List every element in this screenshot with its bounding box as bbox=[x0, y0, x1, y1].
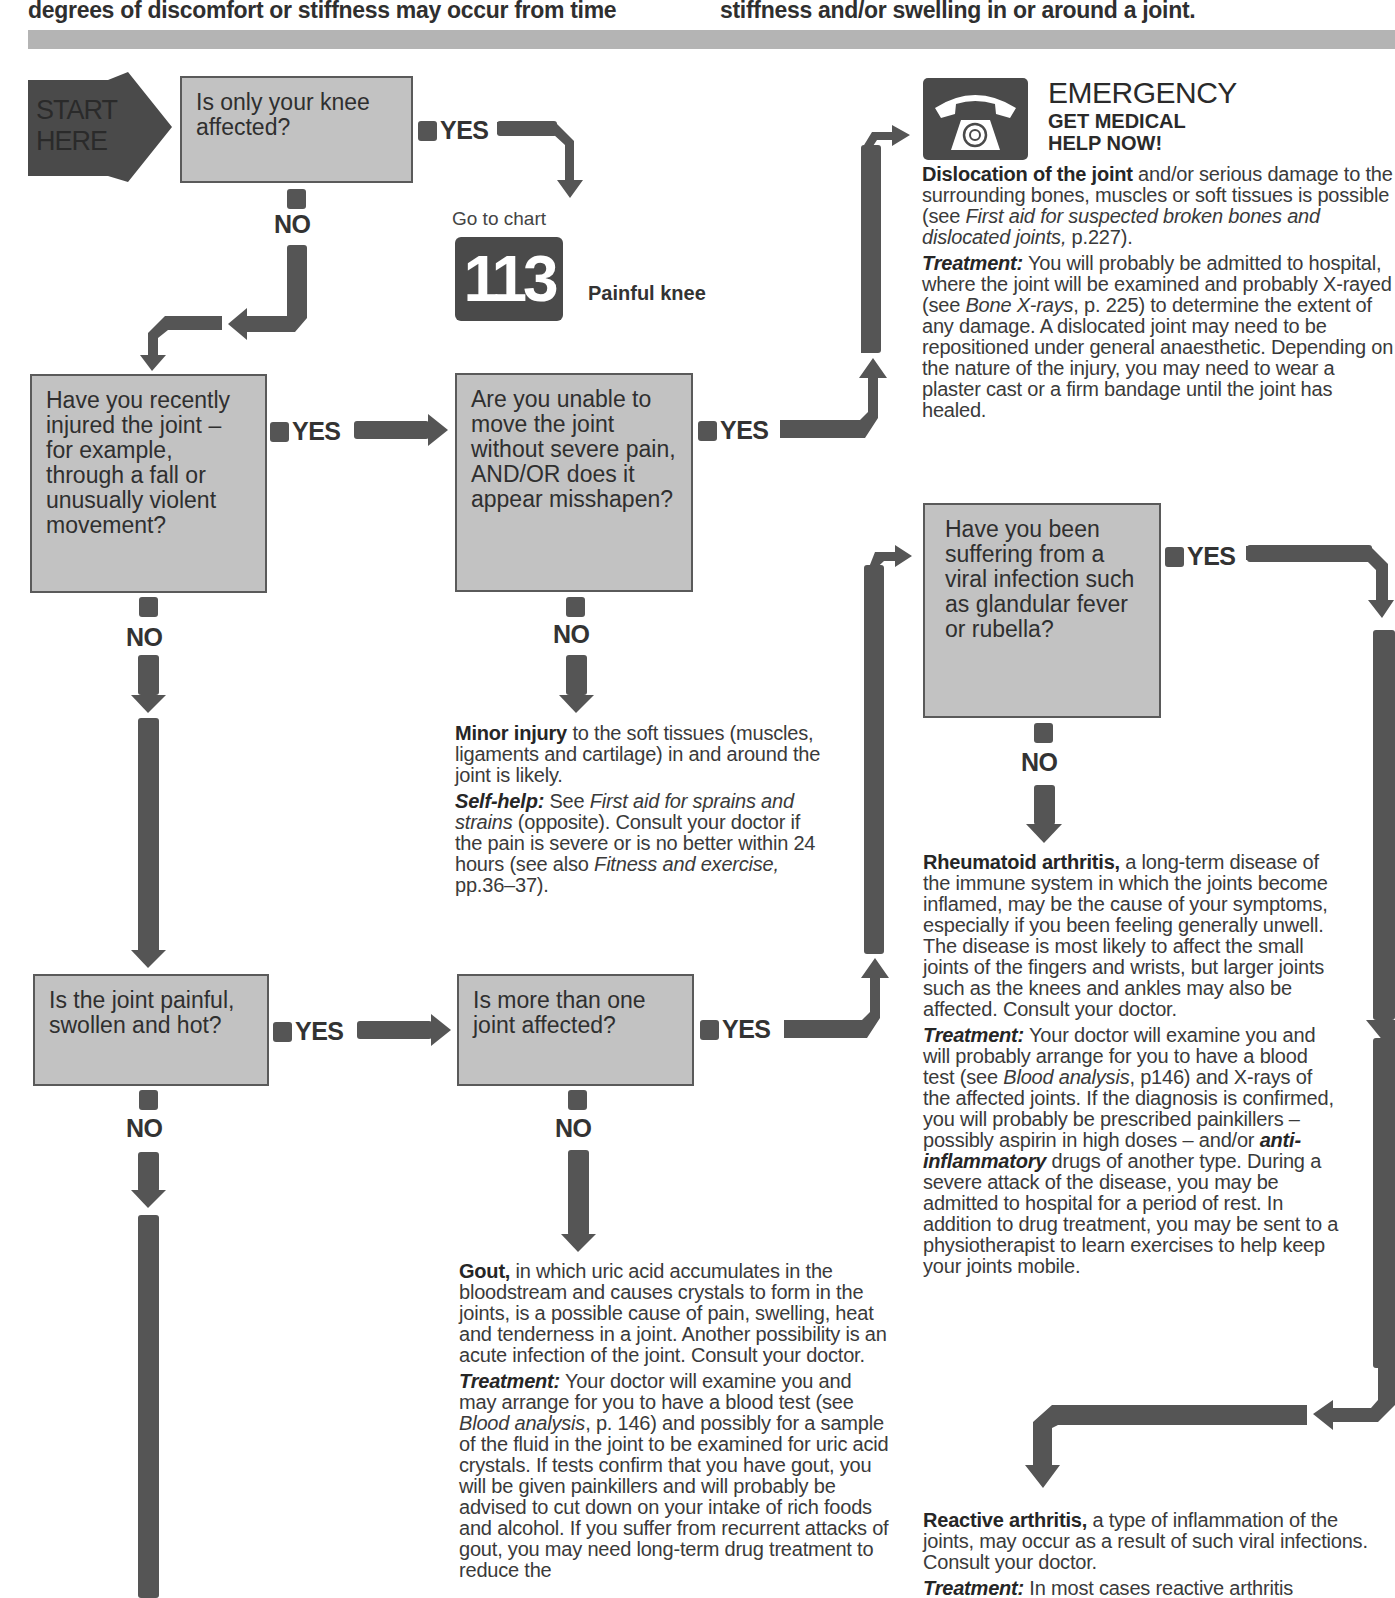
gout-heading: Gout, bbox=[459, 1260, 510, 1282]
yes-marker bbox=[700, 1020, 719, 1040]
reactive-treatment-paragraph: Treatment: In most cases reactive arthri… bbox=[923, 1578, 1393, 1598]
gout-text: in which uric acid accumulates in the bl… bbox=[459, 1260, 887, 1366]
no-marker-q3 bbox=[566, 597, 585, 617]
minor-injury-heading: Minor injury bbox=[455, 722, 567, 744]
question-unable-to-move: Are you unable to move the joint without… bbox=[455, 373, 693, 592]
no-label-q2: NO bbox=[126, 623, 163, 652]
start-here-label: START HERE bbox=[36, 95, 117, 157]
self-help-label: Self-help: bbox=[455, 790, 544, 812]
start-text-line2: HERE bbox=[36, 126, 117, 157]
yes-label-q3: YES bbox=[698, 416, 769, 445]
yes-marker bbox=[273, 1022, 292, 1042]
gout-treatment-paragraph: Treatment: Your doctor will examine you … bbox=[459, 1371, 889, 1581]
yes-text: YES bbox=[722, 1015, 771, 1044]
emergency-description: Dislocation of the joint and/or serious … bbox=[922, 164, 1395, 426]
blood-analysis-link: Blood analysis bbox=[459, 1412, 585, 1434]
yes-marker bbox=[1165, 547, 1184, 567]
start-text-line1: START bbox=[36, 95, 117, 126]
gout-paragraph: Gout, in which uric acid accumulates in … bbox=[459, 1261, 889, 1366]
chart-number-badge[interactable]: 113 bbox=[455, 237, 563, 321]
no-label-q1: NO bbox=[274, 210, 311, 239]
no-marker-q6 bbox=[1034, 723, 1053, 743]
telephone-icon bbox=[923, 78, 1028, 160]
treatment-label: Treatment: bbox=[459, 1370, 560, 1392]
no-marker-q1 bbox=[287, 189, 306, 209]
no-marker-q5 bbox=[568, 1090, 587, 1110]
yes-text: YES bbox=[720, 416, 769, 445]
minor-injury-conclusion: Minor injury to the soft tissues (muscle… bbox=[455, 723, 825, 901]
yes-label-q4: YES bbox=[273, 1017, 344, 1046]
yes-marker bbox=[270, 422, 289, 442]
yes-marker bbox=[698, 421, 717, 441]
no-marker-q2 bbox=[139, 597, 158, 617]
yes-text: YES bbox=[292, 417, 341, 446]
minor-injury-paragraph: Minor injury to the soft tissues (muscle… bbox=[455, 723, 825, 786]
emergency-subtitle-line1: GET MEDICAL bbox=[1048, 110, 1186, 132]
emergency-subtitle-line2: HELP NOW! bbox=[1048, 132, 1186, 154]
self-help-text-3: pp.36–37). bbox=[455, 874, 549, 896]
chart-number: 113 bbox=[463, 242, 554, 316]
goto-chart-title[interactable]: Painful knee bbox=[588, 282, 706, 305]
no-label-q3: NO bbox=[553, 620, 590, 649]
no-label-q6: NO bbox=[1021, 748, 1058, 777]
emergency-phone-icon bbox=[923, 78, 1028, 160]
no-marker-q4 bbox=[139, 1090, 158, 1110]
goto-chart-prefix: Go to chart bbox=[452, 208, 546, 230]
rheumatoid-conclusion: Rheumatoid arthritis, a long-term diseas… bbox=[923, 852, 1343, 1282]
self-help-text: See bbox=[544, 790, 590, 812]
yes-label-q2: YES bbox=[270, 417, 341, 446]
rheumatoid-paragraph: Rheumatoid arthritis, a long-term diseas… bbox=[923, 852, 1343, 1020]
reactive-paragraph: Reactive arthritis, a type of inflammati… bbox=[923, 1510, 1393, 1573]
treatment-text: In most cases reactive arthritis bbox=[1024, 1577, 1293, 1598]
yes-text: YES bbox=[440, 116, 489, 145]
no-label-q4: NO bbox=[126, 1114, 163, 1143]
blood-analysis-link: Blood analysis bbox=[1003, 1066, 1129, 1088]
no-label-q5: NO bbox=[555, 1114, 592, 1143]
fitness-exercise-link: Fitness and exercise, bbox=[594, 853, 779, 875]
reactive-heading: Reactive arthritis, bbox=[923, 1509, 1087, 1531]
emergency-treatment-paragraph: Treatment: You will probably be admitted… bbox=[922, 253, 1395, 421]
reactive-arthritis-conclusion: Reactive arthritis, a type of inflammati… bbox=[923, 1510, 1393, 1598]
dislocation-text-end: p.227). bbox=[1066, 226, 1132, 248]
emergency-title: EMERGENCY bbox=[1048, 76, 1237, 110]
yes-marker bbox=[418, 121, 437, 141]
self-help-paragraph: Self-help: See First aid for sprains and… bbox=[455, 791, 825, 896]
yes-text: YES bbox=[295, 1017, 344, 1046]
rheumatoid-heading: Rheumatoid arthritis, bbox=[923, 851, 1120, 873]
dislocation-paragraph: Dislocation of the joint and/or serious … bbox=[922, 164, 1395, 248]
treatment-label: Treatment: bbox=[923, 1577, 1024, 1598]
yes-label-q1: YES bbox=[418, 116, 489, 145]
yes-text: YES bbox=[1187, 542, 1236, 571]
treatment-text-2: , p. 146) and possibly for a sample of t… bbox=[459, 1412, 888, 1581]
treatment-label: Treatment: bbox=[923, 1024, 1024, 1046]
dislocation-heading: Dislocation of the joint bbox=[922, 163, 1133, 185]
question-more-than-one-joint: Is more than one joint affected? bbox=[457, 974, 694, 1086]
question-viral-infection: Have you been suffering from a viral inf… bbox=[923, 503, 1161, 718]
yes-label-q5: YES bbox=[700, 1015, 771, 1044]
question-recent-injury: Have you recently injured the joint – fo… bbox=[30, 374, 267, 593]
emergency-subtitle: GET MEDICAL HELP NOW! bbox=[1048, 110, 1186, 154]
rheumatoid-treatment-paragraph: Treatment: Your doctor will examine you … bbox=[923, 1025, 1343, 1277]
treatment-label: Treatment: bbox=[922, 252, 1023, 274]
bone-xrays-link: Bone X-rays bbox=[965, 294, 1073, 316]
question-painful-swollen-hot: Is the joint painful, swollen and hot? bbox=[33, 974, 269, 1086]
gout-conclusion: Gout, in which uric acid accumulates in … bbox=[459, 1261, 889, 1586]
rheumatoid-text: a long-term disease of the immune system… bbox=[923, 851, 1328, 1020]
yes-label-q6: YES bbox=[1165, 542, 1236, 571]
question-knee-only: Is only your knee affected? bbox=[180, 76, 413, 183]
